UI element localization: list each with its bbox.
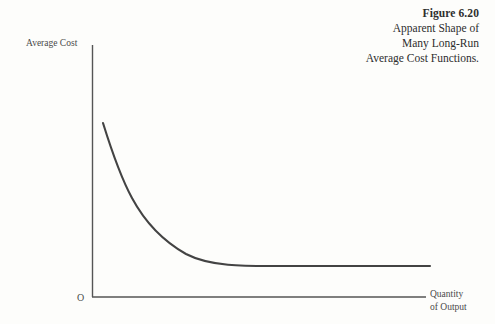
average-cost-curve <box>103 123 430 266</box>
plot-area <box>0 0 495 324</box>
figure-container: Figure 6.20 Apparent Shape of Many Long-… <box>0 0 495 324</box>
